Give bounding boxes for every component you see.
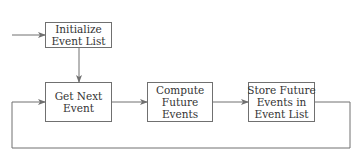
node-initialize-event-list: Initialize Event List [45,22,112,48]
node-label-line: Compute [156,84,204,96]
node-label-line: Store Future [247,84,316,96]
node-label-line: Event List [51,35,105,47]
node-store-future-events: Store Future Events in Event List [248,82,315,122]
node-get-next-event: Get Next Event [45,82,112,122]
node-label-line: Event [55,102,103,114]
node-label-line: Get Next [55,90,103,102]
node-label-line: Events in [247,96,316,108]
node-label-line: Events [156,108,204,120]
node-label-line: Event List [247,108,316,120]
node-compute-future-events: Compute Future Events [147,82,213,122]
node-label-line: Initialize [51,23,105,35]
node-label-line: Future [156,96,204,108]
